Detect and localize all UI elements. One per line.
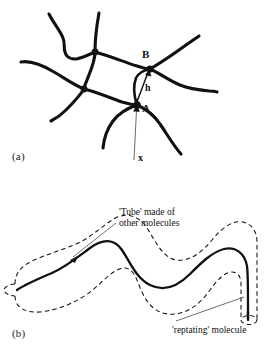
panel-b-reptation: 'Tube' made of other molecules 'reptatin…: [0, 180, 278, 353]
strand-left-horizontal: [21, 62, 84, 89]
label-vector-x: x: [138, 152, 143, 163]
junction-node-2: [81, 86, 88, 93]
strand-a-lower-left-arc: [103, 105, 137, 148]
vector-x-shaft: [134, 110, 137, 160]
tube-wall-upper: [15, 215, 257, 320]
strand-b-upper-right: [150, 36, 199, 69]
callout-tube-line1: 'Tube' made of: [119, 207, 176, 217]
figure-container: B A h x (a): [0, 0, 278, 353]
strand-upper-left: [49, 14, 95, 59]
panel-a-network: B A h x: [0, 0, 278, 180]
label-vector-h: h: [145, 82, 151, 93]
label-node-a: A: [142, 102, 150, 114]
label-node-b: B: [142, 48, 150, 60]
junction-node-b: [146, 65, 153, 72]
panel-b-label: (b): [12, 327, 25, 339]
callout-molecule-text: 'reptating' molecule: [172, 325, 246, 335]
tube-cap-left: [4, 284, 15, 296]
reptating-chain: [17, 241, 248, 319]
panel-a-label: (a): [12, 150, 25, 162]
strand-b-right: [150, 69, 217, 92]
callout-tube-leader: [73, 223, 116, 257]
strand-n2-to-a: [84, 89, 137, 105]
junction-node-1: [92, 49, 99, 56]
callout-tube-line2: other molecules: [119, 218, 180, 228]
tube-outline: [4, 215, 257, 324]
callout-molecule-leader: [176, 297, 244, 321]
tube-wall-lower: [15, 268, 241, 320]
network-strands: [21, 13, 217, 154]
callout-molecule: 'reptating' molecule: [172, 297, 246, 335]
strand-n2-lower-left: [51, 89, 84, 121]
